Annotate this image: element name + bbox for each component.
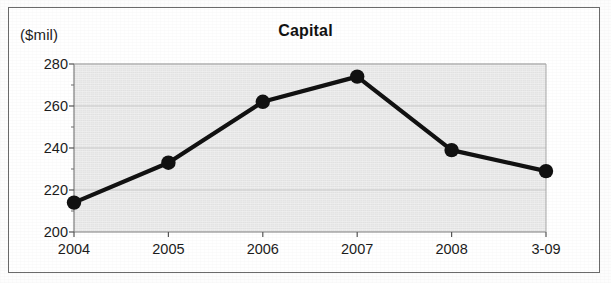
x-tick-label: 2004 xyxy=(58,241,90,257)
data-line-group xyxy=(74,77,546,203)
chart-title: Capital xyxy=(0,22,611,40)
data-point xyxy=(256,95,270,109)
data-point xyxy=(161,156,175,170)
data-point xyxy=(444,143,458,157)
data-point xyxy=(67,195,81,209)
y-tick-label: 200 xyxy=(24,224,68,240)
data-point xyxy=(350,69,364,83)
y-tick-label: 220 xyxy=(24,182,68,198)
x-tick-label: 2006 xyxy=(247,241,279,257)
plot-area xyxy=(0,0,611,283)
data-point xyxy=(539,164,553,178)
x-tick-label: 2007 xyxy=(341,241,373,257)
x-tick-label: 3-09 xyxy=(531,241,560,257)
series-line-capital xyxy=(74,77,546,203)
x-tick-label: 2008 xyxy=(435,241,467,257)
y-tick-label: 280 xyxy=(24,56,68,72)
x-tick-label: 2005 xyxy=(152,241,184,257)
line-chart-svg xyxy=(0,0,611,283)
y-tick-label: 240 xyxy=(24,140,68,156)
chart-figure: ($mil) Capital 200220240260280 200420052… xyxy=(0,0,611,283)
y-tick-label: 260 xyxy=(24,98,68,114)
